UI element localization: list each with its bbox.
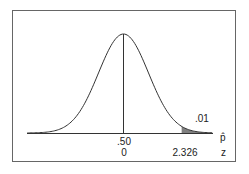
- z-center-label: 0: [121, 148, 127, 158]
- tail-area-label: .01: [195, 114, 209, 124]
- z-critical-label: 2.326: [172, 148, 197, 158]
- phat-center-label: .50: [117, 137, 131, 147]
- phat-axis-label: p̂: [220, 133, 226, 143]
- normal-curve: [27, 34, 212, 133]
- z-axis-label: z: [221, 148, 226, 158]
